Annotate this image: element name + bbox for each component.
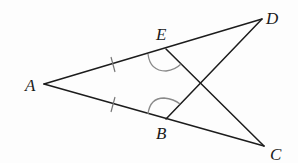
- geometry-diagram: A E D B C: [0, 0, 298, 163]
- point-label-A: A: [24, 76, 36, 95]
- point-label-B: B: [156, 124, 167, 143]
- diagram-canvas: A E D B C: [0, 0, 298, 163]
- segment-AD: [44, 19, 262, 84]
- angle-arc-E: [148, 54, 181, 71]
- point-label-E: E: [155, 25, 167, 44]
- point-label-D: D: [265, 9, 279, 28]
- segment-AC: [44, 84, 264, 146]
- point-label-C: C: [270, 145, 282, 163]
- angle-arc-B: [148, 98, 180, 114]
